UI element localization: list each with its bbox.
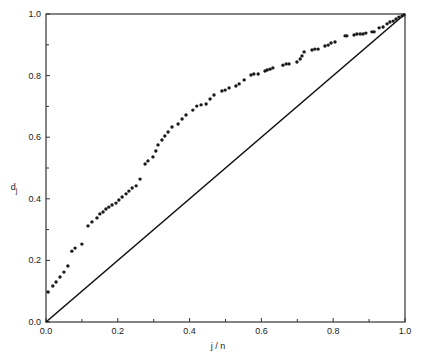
data-point [204, 102, 207, 105]
data-point [107, 205, 110, 208]
data-point [388, 20, 391, 23]
data-point [156, 143, 159, 146]
data-point [212, 93, 215, 96]
y-axis-label-subscript: j [15, 187, 18, 195]
data-point [154, 149, 157, 152]
data-point [227, 86, 230, 89]
data-point [199, 103, 202, 106]
chart: 0.00.20.40.60.81.0 0.00.20.40.60.81.0 j … [0, 0, 423, 355]
data-point [166, 130, 169, 133]
data-point [146, 159, 149, 162]
data-point [310, 48, 313, 51]
data-point [66, 264, 69, 267]
data-point [127, 189, 130, 192]
scatter-points [46, 13, 405, 294]
x-tick-label: 0.4 [183, 326, 196, 336]
data-point [70, 249, 73, 252]
reference-diagonal-line [46, 14, 405, 322]
data-point [256, 72, 259, 75]
data-point [355, 32, 358, 35]
data-point [265, 68, 268, 71]
data-point [86, 224, 89, 227]
data-point [316, 47, 319, 50]
x-tick-label: 1.0 [399, 326, 412, 336]
data-point [134, 184, 137, 187]
data-point [394, 17, 397, 20]
data-point [101, 210, 104, 213]
data-point [361, 32, 364, 35]
data-point [170, 125, 173, 128]
data-point [242, 78, 245, 81]
data-point [195, 104, 198, 107]
data-point [58, 275, 61, 278]
x-tick-label: 0.0 [40, 326, 53, 336]
data-point [352, 33, 355, 36]
data-point [313, 47, 316, 50]
data-point [223, 88, 226, 91]
data-point [138, 177, 141, 180]
data-point [114, 201, 117, 204]
data-point [281, 63, 284, 66]
data-point [124, 192, 127, 195]
data-point [184, 113, 187, 116]
y-axis-tick-labels: 0.00.20.40.60.81.0 [28, 9, 41, 327]
data-point [160, 138, 163, 141]
y-tick-label: 0.6 [28, 132, 41, 142]
data-point [130, 186, 133, 189]
y-tick-label: 0.8 [28, 71, 41, 81]
data-point [364, 31, 367, 34]
data-point [176, 122, 179, 125]
data-point [151, 155, 154, 158]
data-point [249, 73, 252, 76]
x-tick-label: 0.2 [112, 326, 125, 336]
data-point [62, 270, 65, 273]
data-point [300, 54, 303, 57]
x-tick-label: 0.8 [327, 326, 340, 336]
data-point [117, 198, 120, 201]
data-point [46, 290, 49, 293]
data-point [54, 280, 57, 283]
data-point [237, 82, 240, 85]
data-point [298, 57, 301, 60]
y-tick-label: 1.0 [28, 9, 41, 19]
data-point [329, 41, 332, 44]
data-point [252, 72, 255, 75]
data-point [302, 50, 305, 53]
data-point [143, 162, 146, 165]
y-tick-label: 0.0 [28, 317, 41, 327]
data-point [402, 13, 405, 16]
y-axis-label: dj [11, 182, 18, 195]
data-point [90, 220, 93, 223]
data-point [180, 117, 183, 120]
y-tick-label: 0.4 [28, 194, 41, 204]
data-point [110, 203, 113, 206]
data-point [391, 19, 394, 22]
data-point [372, 30, 375, 33]
data-point [80, 242, 83, 245]
data-point [345, 34, 348, 37]
data-point [234, 84, 237, 87]
data-point [73, 246, 76, 249]
data-point [104, 207, 107, 210]
data-point [326, 43, 329, 46]
data-point [191, 108, 194, 111]
data-point [323, 44, 326, 47]
data-point [51, 284, 54, 287]
data-point [95, 216, 98, 219]
data-point [295, 60, 298, 63]
x-axis-tick-labels: 0.00.20.40.60.81.0 [40, 326, 412, 336]
x-tick-label: 0.6 [255, 326, 268, 336]
data-point [163, 134, 166, 137]
x-axis-label: j / n [210, 341, 226, 351]
data-point [397, 15, 400, 18]
data-point [98, 212, 101, 215]
data-point [287, 62, 290, 65]
data-point [208, 97, 211, 100]
data-point [271, 66, 274, 69]
data-point [381, 25, 384, 28]
y-tick-label: 0.2 [28, 255, 41, 265]
data-point [120, 195, 123, 198]
data-point [220, 89, 223, 92]
data-point [333, 40, 336, 43]
data-point [385, 22, 388, 25]
